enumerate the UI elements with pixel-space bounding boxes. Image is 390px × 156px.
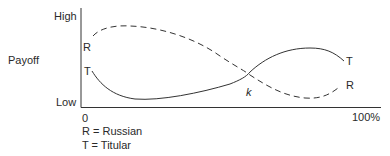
x-tick-end: 100% <box>352 111 380 123</box>
legend-russian: R = Russian <box>82 125 142 137</box>
curve-r-start-label: R <box>83 41 91 53</box>
y-tick-low: Low <box>56 96 76 108</box>
legend-titular: T = Titular <box>82 139 131 151</box>
curve-russian <box>93 26 338 98</box>
curve-r-end-label: R <box>346 79 354 91</box>
y-axis-label: Payoff <box>8 54 39 66</box>
y-tick-high: High <box>54 10 77 22</box>
intersection-label: k <box>246 86 252 98</box>
chart-canvas <box>0 0 390 156</box>
curve-t-end-label: T <box>346 55 353 67</box>
x-tick-start: 0 <box>82 112 88 124</box>
curve-titular <box>92 48 344 99</box>
curve-t-start-label: T <box>84 65 91 77</box>
